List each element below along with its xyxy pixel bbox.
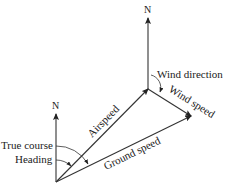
north-label-top: N: [144, 4, 151, 15]
ground-speed-label: Ground speed: [102, 134, 163, 172]
airspeed-vector: [56, 89, 148, 182]
wind-triangle-diagram: N Airspeed N Wind speed Ground speed Win…: [0, 0, 226, 195]
heading-label: Heading: [15, 153, 53, 165]
north-label-left: N: [52, 100, 59, 111]
wind-speed-label: Wind speed: [167, 83, 218, 121]
heading-arc: [56, 160, 71, 166]
ground-speed-vector: [56, 116, 191, 182]
true-course-label: True course: [1, 139, 53, 151]
wind-direction-label: Wind direction: [157, 68, 223, 80]
